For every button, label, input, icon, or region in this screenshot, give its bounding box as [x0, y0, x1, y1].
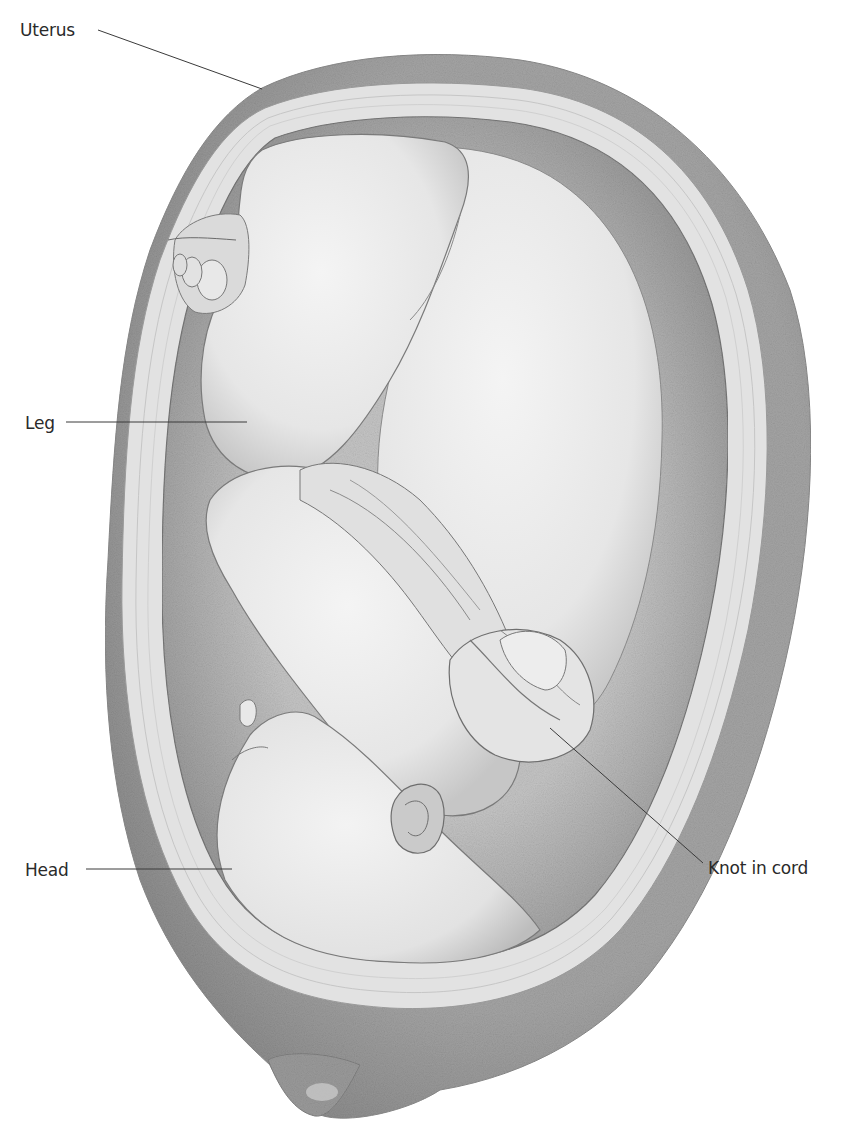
label-uterus: Uterus — [20, 20, 75, 40]
label-knot-in-cord: Knot in cord — [708, 858, 808, 878]
diagram-stage: Uterus Leg Head Knot in cord — [0, 0, 853, 1134]
fetus-ear — [391, 784, 444, 853]
uterus-fetus-illustration — [0, 0, 853, 1134]
leader-line-uterus — [98, 30, 262, 89]
label-leg: Leg — [25, 413, 55, 433]
label-head: Head — [25, 860, 69, 880]
